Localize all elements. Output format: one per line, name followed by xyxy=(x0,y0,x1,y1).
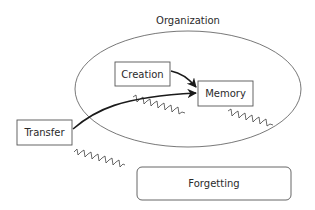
node-memory[interactable]: Memory xyxy=(198,81,253,106)
wavy-edge-transfer-to-forgetting xyxy=(74,149,125,167)
node-memory-label: Memory xyxy=(205,88,246,99)
arrow-creation-to-memory xyxy=(171,71,196,87)
node-creation-label: Creation xyxy=(121,69,163,80)
node-transfer-label: Transfer xyxy=(23,127,65,138)
wavy-edge-memory-to-forgetting xyxy=(228,109,273,126)
node-transfer[interactable]: Transfer xyxy=(17,120,72,145)
node-forgetting-label: Forgetting xyxy=(188,178,239,189)
node-forgetting[interactable]: Forgetting xyxy=(137,167,291,200)
organizational-learning-diagram: Organization Creation Memory Transfer Fo… xyxy=(0,0,315,210)
organization-boundary xyxy=(75,31,301,147)
arrow-transfer-to-memory xyxy=(73,93,196,129)
organization-label: Organization xyxy=(156,15,220,26)
node-creation[interactable]: Creation xyxy=(115,62,170,86)
wavy-edge-organization-to-forgetting xyxy=(133,95,185,114)
